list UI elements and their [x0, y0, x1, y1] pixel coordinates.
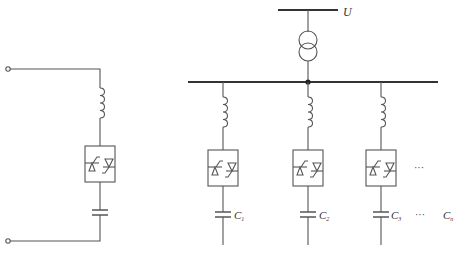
thyristor-pair-icon [293, 150, 323, 186]
capacitor-label: C1 [234, 209, 244, 222]
capacitor-icon [92, 210, 108, 215]
thyristor-pair-icon [208, 150, 238, 186]
terminal-bottom [6, 239, 10, 243]
capacitor-icon [215, 212, 231, 217]
single-tsc-branch [6, 67, 115, 243]
thyristor-pair-icon [366, 150, 396, 186]
ellipsis-thyristor: ··· [414, 162, 424, 173]
thyristor-pair-icon [85, 146, 115, 182]
inductor-icon [381, 97, 386, 127]
branch-3: C3 [366, 82, 401, 245]
inductor-icon [100, 88, 105, 118]
tsc-circuit-diagram: U C1 C2 C [0, 0, 461, 259]
supply-section: U [188, 5, 438, 85]
branch-2: C2 [293, 82, 329, 245]
capacitor-icon [300, 212, 316, 217]
capacitor-label-n: Cn [443, 209, 453, 222]
terminal-top [6, 67, 10, 71]
capacitor-icon [373, 212, 389, 217]
branch-1: C1 [208, 82, 244, 245]
capacitor-label: C3 [391, 209, 401, 222]
voltage-label: U [343, 5, 353, 19]
capacitor-label: C2 [319, 209, 329, 222]
transformer-icon [299, 31, 317, 61]
ellipsis-capacitor: ··· [415, 209, 425, 220]
inductor-icon [308, 97, 313, 127]
inductor-icon [223, 97, 228, 127]
